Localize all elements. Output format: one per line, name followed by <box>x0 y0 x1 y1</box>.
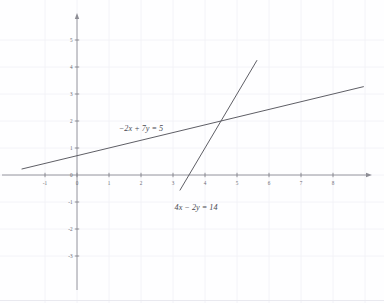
series-line <box>180 61 257 191</box>
y-tick-label: -1 <box>68 199 73 205</box>
gridlines <box>0 0 384 303</box>
y-tick-label: -2 <box>68 226 73 232</box>
series-line <box>22 87 363 169</box>
x-tick-label: 6 <box>268 180 271 186</box>
data-series <box>22 61 363 191</box>
y-tick-label: 1 <box>70 145 73 151</box>
chart-canvas: -1012345678 -3-2-112345 −2x + 7y = 54x −… <box>0 0 384 303</box>
y-tick-label: 3 <box>70 91 73 97</box>
y-tick-label: -3 <box>68 253 73 259</box>
axes <box>2 13 372 290</box>
y-tick-label: 4 <box>70 64 73 70</box>
coordinate-plane-chart: -1012345678 -3-2-112345 −2x + 7y = 54x −… <box>0 0 384 303</box>
origin-label-group: 0 <box>70 172 73 178</box>
origin-label: 0 <box>70 172 73 178</box>
x-axis-arrow-icon <box>366 173 372 177</box>
x-tick-label: 1 <box>108 180 111 186</box>
equation-label: −2x + 7y = 5 <box>119 124 163 133</box>
x-tick-label: 2 <box>140 180 143 186</box>
y-axis-arrow-icon <box>75 13 79 19</box>
x-tick-label: -1 <box>43 180 48 186</box>
x-tick-label: 0 <box>76 180 79 186</box>
y-tick-label: 2 <box>70 118 73 124</box>
x-tick-label: 8 <box>332 180 335 186</box>
y-tick-label: 5 <box>70 37 73 43</box>
bottom-divider <box>0 300 384 301</box>
x-tick-label: 4 <box>204 180 207 186</box>
equation-label: 4x − 2y = 14 <box>175 203 218 212</box>
x-tick-label: 3 <box>172 180 175 186</box>
equation-annotations: −2x + 7y = 54x − 2y = 14 <box>119 124 218 212</box>
x-tick-label: 7 <box>300 180 303 186</box>
x-tick-label: 5 <box>236 180 239 186</box>
